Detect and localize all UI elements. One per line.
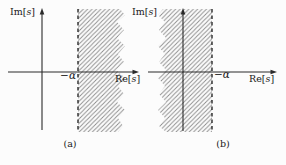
s-plane-roc-figure: Im[s] Re[s] −α (a) Im[s] Re[s] −α (b) — [0, 0, 286, 165]
real-axis-label-b: Re[s] — [249, 74, 274, 84]
imag-axis-label-b-prefix: Im[ — [132, 6, 148, 17]
real-axis-label-a-suffix: ] — [136, 73, 140, 84]
imag-axis-arrowhead-a — [40, 8, 45, 15]
imag-axis-label-a-prefix: Im[ — [10, 6, 26, 17]
imag-axis-label-a-suffix: ] — [31, 6, 35, 17]
real-axis-label-b-prefix: Re[ — [249, 73, 265, 84]
imag-axis-label-a: Im[s] — [10, 7, 35, 17]
imag-axis-label-b-suffix: ] — [153, 6, 157, 17]
figure-b-plot — [148, 8, 277, 132]
roc-hatched-region-b — [158, 9, 212, 132]
figure-caption-a: (a) — [55, 139, 85, 149]
boundary-value-label-a: −α — [57, 70, 76, 82]
roc-hatched-region-a — [78, 9, 125, 132]
real-axis-label-a-prefix: Re[ — [115, 73, 131, 84]
real-axis-label-b-suffix: ] — [270, 73, 274, 84]
figure-caption-b: (b) — [208, 139, 238, 149]
boundary-value-label-b: −α — [214, 69, 230, 81]
imag-axis-label-b: Im[s] — [132, 7, 157, 17]
diagram-canvas — [0, 0, 286, 165]
real-axis-label-a: Re[s] — [115, 74, 140, 84]
